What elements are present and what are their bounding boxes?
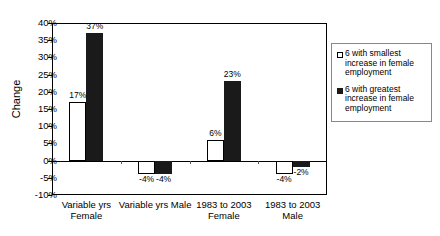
bar bbox=[155, 161, 172, 175]
y-tick-mark bbox=[48, 143, 52, 144]
legend-swatch-filled-icon bbox=[337, 88, 343, 94]
y-tick-mark bbox=[48, 126, 52, 127]
bar bbox=[207, 140, 224, 161]
bar-value-label: 17% bbox=[69, 91, 86, 100]
bar bbox=[276, 161, 293, 175]
bar-value-label: 37% bbox=[86, 22, 103, 31]
legend-item-smallest: 6 with smallest increase in female emplo… bbox=[337, 49, 427, 78]
bar bbox=[138, 161, 155, 175]
bar-value-label: 6% bbox=[209, 129, 221, 138]
x-tick-mark bbox=[190, 161, 191, 164]
bar-value-label: -4% bbox=[139, 175, 154, 184]
y-tick-mark bbox=[48, 75, 52, 76]
bar-value-label: -4% bbox=[277, 175, 292, 184]
x-category-label: 1983 to 2003 Male bbox=[250, 199, 336, 221]
y-tick-mark bbox=[48, 109, 52, 110]
bar-value-label: 23% bbox=[224, 70, 241, 79]
x-tick-mark bbox=[258, 161, 259, 164]
legend-label-smallest: 6 with smallest increase in female emplo… bbox=[345, 49, 427, 78]
y-tick-mark bbox=[48, 92, 52, 93]
bar-value-label: -2% bbox=[294, 168, 309, 177]
bar-value-label: -4% bbox=[156, 175, 171, 184]
bar-chart: Change 40%35%30%25%20%15%10%5%0%-5%-10% … bbox=[0, 0, 440, 236]
y-tick-mark bbox=[48, 40, 52, 41]
legend-label-greatest: 6 with greatest increase in female emplo… bbox=[345, 85, 427, 114]
y-tick-mark bbox=[48, 57, 52, 58]
bar bbox=[293, 161, 310, 168]
legend-item-greatest: 6 with greatest increase in female emplo… bbox=[337, 85, 427, 114]
x-tick-mark bbox=[121, 161, 122, 164]
y-tick-mark bbox=[48, 195, 52, 196]
y-tick-mark bbox=[48, 23, 52, 24]
y-tick-mark bbox=[48, 178, 52, 179]
bar bbox=[224, 81, 241, 160]
bar bbox=[86, 33, 103, 160]
bar bbox=[69, 102, 86, 160]
legend: 6 with smallest increase in female emplo… bbox=[331, 43, 432, 122]
legend-swatch-open-icon bbox=[337, 52, 343, 58]
